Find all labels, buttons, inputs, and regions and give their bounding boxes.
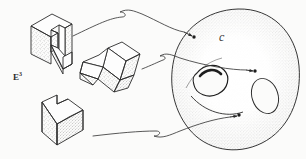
block1-right-face — [65, 24, 72, 57]
arrow-top-endpoint — [192, 35, 195, 38]
torus-shading — [165, 5, 305, 157]
block-top-left — [31, 14, 72, 74]
diagram-svg — [0, 0, 306, 159]
torus-manifold — [165, 5, 305, 157]
euclidean-space-label-exponent: 3 — [19, 71, 22, 77]
block-bottom-left — [42, 95, 83, 145]
euclidean-space-label: E3 — [13, 73, 22, 82]
arrow-middle-endpoint — [253, 69, 256, 72]
figure-canvas: E3 c — [0, 0, 306, 159]
arrow-bottom-endpoint — [237, 113, 240, 116]
block-middle — [80, 42, 140, 92]
manifold-label: c — [219, 31, 224, 43]
